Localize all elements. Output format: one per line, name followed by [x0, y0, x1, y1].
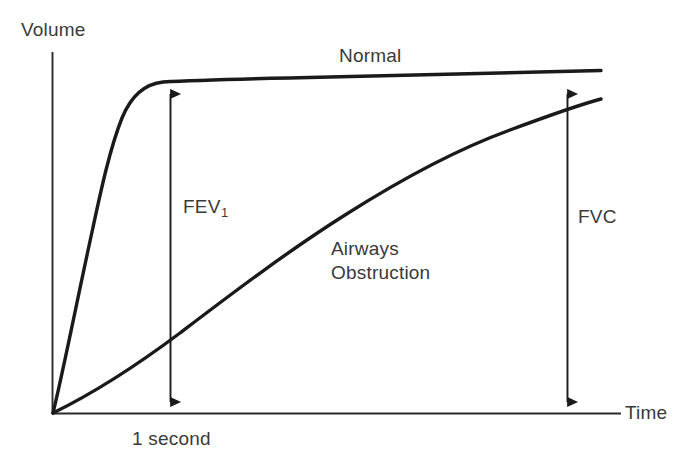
normal-curve-label: Normal [339, 46, 401, 65]
airways-obstruction-curve [53, 99, 601, 413]
fev1-subscript: 1 [221, 205, 228, 220]
normal-curve [53, 71, 601, 414]
obstruction-curve-label-line2: Obstruction [331, 263, 430, 282]
fev1-annotation-label: FEV1 [183, 197, 228, 216]
fev1-annotation-text: FEV [183, 196, 221, 217]
one-second-axis-label: 1 second [132, 429, 211, 448]
obstruction-curve-label-line1: Airways [331, 239, 399, 258]
fvc-annotation-label: FVC [578, 207, 617, 226]
y-axis-label: Volume [21, 20, 86, 39]
volume-time-chart-canvas [0, 0, 693, 462]
spirometry-figure: Volume Time Normal FEV1 FVC Airways Obst… [0, 0, 693, 462]
x-axis-label: Time [625, 403, 667, 422]
